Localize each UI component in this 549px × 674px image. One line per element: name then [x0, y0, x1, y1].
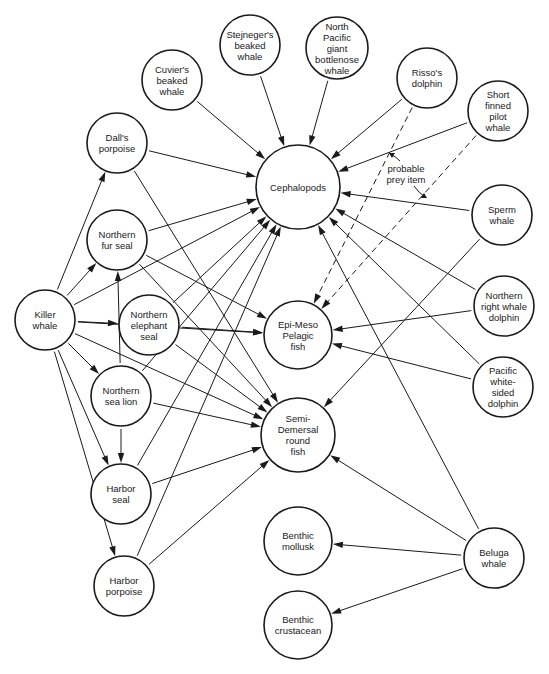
- edge-line: [321, 230, 479, 528]
- node-label: whale: [485, 122, 511, 133]
- node-label: North: [325, 21, 348, 32]
- edge-line: [261, 76, 283, 140]
- node-sfpw: Shortfinnedpilotwhale: [468, 81, 528, 141]
- node-semi: Semi-Demersalroundfish: [261, 398, 335, 472]
- node-label: fish: [291, 341, 306, 352]
- node-label: Cephalopods: [270, 182, 326, 193]
- node-label: right whale: [481, 301, 527, 312]
- node-label: giant: [327, 43, 348, 54]
- edge-nes-to-ceph: [173, 216, 266, 302]
- node-label: bottlenose: [315, 54, 359, 65]
- edge-stejnegers-to-ceph: [261, 76, 285, 146]
- edge-line: [311, 81, 328, 140]
- edge-line: [338, 345, 471, 379]
- arrowhead-icon: [270, 393, 278, 403]
- node-label: whale: [489, 215, 515, 226]
- node-label: Risso's: [412, 67, 443, 78]
- node-label: dolphin: [488, 398, 519, 409]
- node-label: Pacific: [489, 365, 517, 376]
- node-label: whale: [237, 51, 263, 62]
- node-label: whale: [32, 320, 58, 331]
- node-label: Beluga: [479, 547, 509, 558]
- arrowhead-icon: [102, 455, 109, 465]
- arrowhead-icon: [333, 542, 343, 548]
- edge-line: [182, 327, 257, 332]
- arrowhead-icon: [246, 171, 256, 177]
- edge-pwsd-to-ceph: [329, 217, 480, 364]
- node-label: Benthic: [282, 614, 314, 625]
- arrowhead-icon: [338, 165, 348, 172]
- node-ceph: Cephalopods: [256, 145, 340, 229]
- edge-line: [328, 239, 480, 403]
- arrowhead-icon: [257, 311, 267, 318]
- edge-nsl-to-hseal: [118, 429, 124, 463]
- edge-hseal-to-semi: [152, 447, 262, 484]
- node-label: Pacific: [323, 32, 351, 43]
- node-label: Northern: [486, 290, 523, 301]
- node-nsl: Northernsea lion: [91, 366, 151, 426]
- node-label: Northern: [103, 385, 140, 396]
- edge-line: [68, 343, 95, 370]
- node-hporp: Harborporpoise: [94, 556, 154, 616]
- node-npgbw: NorthPacificgiantbottlenosewhale: [306, 17, 368, 79]
- edge-line: [134, 171, 274, 398]
- node-dalls: Dall'sporpoise: [87, 113, 147, 173]
- node-label: Northern: [99, 229, 136, 240]
- node-label: finned: [485, 100, 511, 111]
- arrowhead-icon: [341, 191, 351, 197]
- arrowhead-icon: [278, 136, 284, 146]
- arrowhead-icon: [109, 546, 115, 556]
- node-label: beaked: [156, 75, 187, 86]
- node-label: porpoise: [106, 586, 142, 597]
- node-label: Pelagic: [282, 330, 313, 341]
- edge-hporp-to-ceph: [137, 226, 281, 555]
- edge-line: [335, 458, 466, 540]
- node-label: Harbor: [106, 483, 135, 494]
- annotation-probable-prey-item: probableprey item: [386, 153, 427, 198]
- annotation-text: probable: [388, 163, 425, 174]
- arrowhead-icon: [250, 422, 260, 428]
- edge-dalls-to-ceph: [149, 151, 256, 178]
- edge-line: [137, 232, 278, 556]
- node-label: Semi-: [286, 413, 311, 424]
- edge-line: [339, 311, 472, 330]
- edge-beluga-to-ceph: [318, 225, 478, 529]
- node-label: Epi-Meso: [278, 319, 318, 330]
- node-label: dolphin: [412, 78, 443, 89]
- arrowhead-icon: [318, 225, 326, 235]
- annotation-layer: probableprey item: [386, 153, 427, 198]
- node-label: whale: [324, 65, 350, 76]
- node-hseal: Harborseal: [91, 464, 151, 524]
- edge-line: [173, 220, 262, 302]
- arrowhead-icon: [246, 199, 256, 205]
- node-label: whale: [159, 86, 185, 97]
- arrowhead-icon: [335, 209, 345, 217]
- arrowhead-icon: [99, 172, 106, 182]
- edge-beluga-to-semi: [330, 455, 466, 540]
- node-label: crustacean: [275, 625, 321, 636]
- edge-nes-to-epi: [182, 327, 263, 335]
- arrowhead-icon: [332, 343, 342, 349]
- node-label: white-: [489, 376, 515, 387]
- arrowhead-icon: [309, 135, 315, 145]
- node-label: beaked: [234, 40, 265, 51]
- nodes-layer: KillerwhaleDall'sporpoiseCuvier'sbeakedw…: [15, 15, 534, 659]
- edge-line: [197, 101, 260, 155]
- node-epi: Epi-MesoPelagicfish: [264, 301, 332, 369]
- node-label: Northern: [131, 309, 168, 320]
- node-label: Harbor: [109, 575, 138, 586]
- edge-npgbw-to-ceph: [309, 81, 328, 146]
- node-label: fish: [291, 446, 306, 457]
- edge-line: [67, 268, 92, 296]
- node-label: Demersal: [278, 424, 319, 435]
- edge-killer-to-nfs: [67, 263, 96, 295]
- node-label: elephant: [131, 320, 168, 331]
- node-cuviers: Cuvier'sbeakedwhale: [142, 50, 202, 110]
- edge-line: [149, 151, 250, 176]
- node-label: dolphin: [489, 312, 520, 323]
- edge-sperm-to-ceph: [341, 191, 470, 210]
- node-stejnegers: Stejneger'sbeakedwhale: [220, 15, 280, 75]
- node-nfs: Northernfur seal: [87, 210, 147, 270]
- edge-line: [339, 545, 461, 556]
- edge-beluga-to-bcrust: [331, 569, 463, 614]
